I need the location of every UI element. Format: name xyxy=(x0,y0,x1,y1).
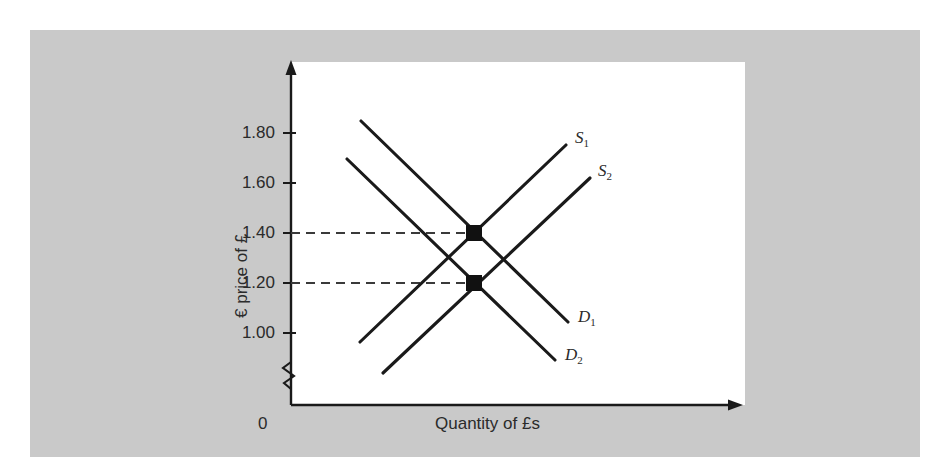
figure-container: € price of £ 1.80 1.60 1.40 1.20 1.00 0 … xyxy=(0,0,950,473)
curve-d1 xyxy=(361,121,568,322)
curve-label-d1-text: D xyxy=(578,307,590,326)
curve-s1 xyxy=(360,145,566,342)
x-axis xyxy=(291,400,743,411)
curve-label-d1-sub: 1 xyxy=(590,316,596,328)
curve-s2 xyxy=(383,178,590,373)
y-tick-label-1-80: 1.80 xyxy=(242,123,275,143)
equilibrium-marker-1 xyxy=(466,225,482,241)
price-leader-lines xyxy=(291,233,472,283)
x-axis-title: Quantity of £s xyxy=(435,414,540,434)
curve-label-d2-sub: 2 xyxy=(577,354,583,366)
curve-label-s2-sub: 2 xyxy=(607,170,613,182)
curve-label-s1-text: S xyxy=(575,128,584,147)
y-tick-label-1-00: 1.00 xyxy=(242,323,275,343)
curve-label-d1: D1 xyxy=(578,307,596,328)
curve-label-s1: S1 xyxy=(575,128,589,149)
curve-label-s2-text: S xyxy=(598,161,607,180)
curve-label-s2: S2 xyxy=(598,161,612,182)
curve-label-d2-text: D xyxy=(565,345,577,364)
origin-label: 0 xyxy=(258,414,267,434)
y-tick-label-1-60: 1.60 xyxy=(242,173,275,193)
equilibrium-marker-2 xyxy=(466,275,482,291)
y-tick-label-1-20: 1.20 xyxy=(242,273,275,293)
chart-svg xyxy=(0,0,950,473)
curve-label-d2: D2 xyxy=(565,345,583,366)
curve-label-s1-sub: 1 xyxy=(584,137,590,149)
y-tick-label-1-40: 1.40 xyxy=(242,223,275,243)
curve-d2 xyxy=(347,159,555,360)
axis-break-icon xyxy=(283,362,294,389)
